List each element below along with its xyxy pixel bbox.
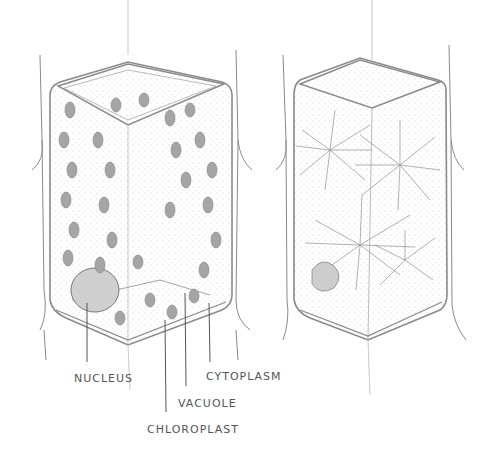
- label-cytoplasm: CYTOPLASM: [206, 370, 282, 383]
- label-vacuole: VACUOLE: [178, 397, 237, 410]
- cell-illustration: [0, 0, 489, 456]
- label-chloroplast: CHLOROPLAST: [147, 423, 239, 436]
- right-cell: [276, 0, 466, 395]
- diagram-canvas: NUCLEUS CYTOPLASM VACUOLE CHLOROPLAST: [0, 0, 489, 456]
- label-nucleus: NUCLEUS: [74, 372, 133, 385]
- left-cell: [32, 0, 252, 390]
